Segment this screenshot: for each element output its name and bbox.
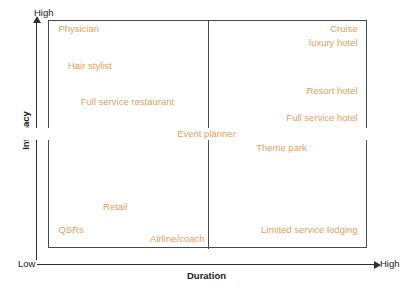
data-point-label: Cruise xyxy=(330,23,357,35)
y-axis-high-label: High xyxy=(34,7,54,18)
data-point-label: Full service hotel xyxy=(286,112,357,124)
data-point-label: Event planner xyxy=(0,128,413,140)
data-point-label: Hair stylist xyxy=(68,60,112,72)
data-point-label: Limited service lodging xyxy=(261,224,358,236)
x-axis-low-label: Low xyxy=(18,258,35,269)
data-point-label: Physician xyxy=(58,23,99,35)
data-point-label: QSRs xyxy=(58,224,83,236)
x-axis-high-label: High xyxy=(380,258,400,269)
x-axis-arrow xyxy=(37,264,374,265)
data-point-label: Full service restaurant xyxy=(81,96,174,108)
data-point-label: Retail xyxy=(103,201,127,213)
data-point-label: Airline/coach xyxy=(150,233,204,245)
y-axis-arrow xyxy=(36,22,37,260)
x-axis-title: Duration xyxy=(0,270,413,281)
data-point-label: Theme park xyxy=(256,142,307,154)
data-point-label: Resort hotel xyxy=(306,85,357,97)
data-point-label: luxury hotel xyxy=(309,37,358,49)
positioning-matrix-chart: High Intimacy Low High Duration Physicia… xyxy=(0,0,413,291)
